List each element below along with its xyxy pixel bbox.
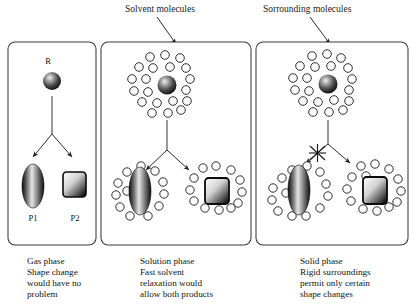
caption-line: Solid phase — [300, 256, 343, 266]
caption-line: problem — [27, 289, 58, 299]
surrounding-molecules-label: Sorrounding molecules — [263, 4, 352, 14]
caption-line: Rigid surroundings — [300, 267, 371, 277]
product-1-label: P1 — [28, 213, 37, 223]
caption-line: Gas phase — [27, 256, 65, 266]
caption-line: relaxation would — [140, 278, 202, 288]
caption-line: would have no — [27, 278, 81, 288]
reactant-sphere-solid — [319, 75, 338, 94]
solvent-pointer-arrow — [157, 17, 176, 44]
caption-line: Shape change — [27, 267, 78, 277]
product-2-square-solid — [363, 177, 387, 204]
surrounding-pointer-arrow — [310, 17, 330, 44]
caption-line: Fast solvent — [140, 267, 185, 277]
caption-line: allow both products — [140, 289, 213, 299]
reaction-phase-diagram: Solvent molecules Sorrounding molecules … — [0, 0, 416, 307]
reactant-sphere-gas — [43, 72, 61, 90]
caption-solution-phase: Solution phase Fast solvent relaxation w… — [140, 256, 213, 299]
reactant-label: R — [45, 56, 51, 66]
panel-solution-phase — [101, 42, 251, 245]
product-1-ellipse-gas — [22, 164, 44, 208]
solvent-molecules-label: Solvent molecules — [125, 4, 195, 14]
caption-line: permit only certain — [300, 278, 370, 288]
product-1-ellipse-solution — [129, 167, 151, 215]
caption-solid-phase: Solid phase Rigid surroundings permit on… — [300, 256, 371, 299]
blocked-pathway-cross-icon — [309, 144, 326, 162]
reactant-sphere-solution — [158, 76, 177, 95]
product-2-label: P2 — [70, 213, 79, 223]
caption-line: shape changes — [300, 289, 353, 299]
caption-gas-phase: Gas phase Shape change would have no pro… — [27, 256, 81, 299]
caption-line: Solution phase — [140, 256, 194, 266]
product-2-square-solution — [205, 178, 229, 204]
figure-canvas: Solvent molecules Sorrounding molecules … — [0, 0, 416, 307]
product-2-square-gas — [63, 172, 86, 197]
product-1-ellipse-solid — [288, 165, 310, 215]
